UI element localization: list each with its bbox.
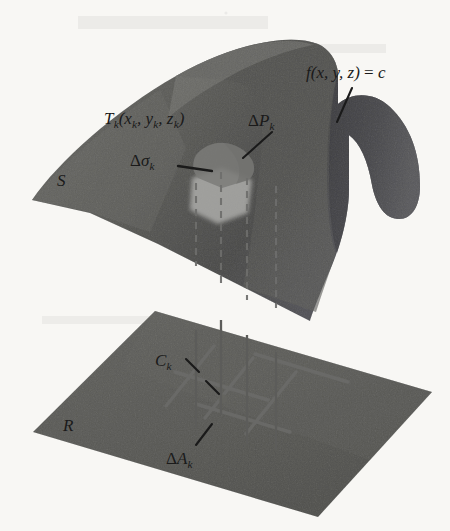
tangent-point-args-open: (x (119, 109, 132, 128)
surface-name-label: S (57, 172, 66, 189)
cell-point-label: Ck (155, 352, 172, 372)
surface-fold-lobe (329, 72, 420, 253)
tangent-patch-base: P (259, 111, 269, 130)
cell-area-base: A (177, 449, 187, 468)
cell-area-delta: Δ (166, 449, 177, 468)
level-surface-args: (x, y, z) (311, 63, 360, 82)
surface-integral-figure: f(x, y, z) = c Tk(xk, yk, zk) ΔPk Δσk S … (0, 0, 450, 531)
tangent-point-label: Tk(xk, yk, zk) (104, 110, 184, 130)
tangent-patch-label: ΔPk (248, 112, 275, 132)
cell-point-base: C (155, 351, 166, 370)
region-name-label: R (63, 417, 73, 434)
surface-patch-delta: Δ (130, 151, 141, 170)
tangent-patch-delta: Δ (248, 111, 259, 130)
tangent-point-args-mid1: , y (137, 109, 153, 128)
cell-point-sub: k (167, 360, 172, 372)
tangent-point-base: T (104, 109, 113, 128)
tangent-point-args-close: ) (179, 109, 185, 128)
surface-patch-sub: k (150, 160, 155, 172)
cell-area-sub: k (188, 458, 193, 470)
tangent-patch-sub: k (270, 120, 275, 132)
surface-patch-base: σ (141, 151, 149, 170)
level-surface-equation-label: f(x, y, z) = c (306, 64, 385, 81)
surface-patch-label: Δσk (130, 152, 155, 172)
level-surface-c: c (378, 63, 386, 82)
tangent-point-args-mid2: , z (158, 109, 173, 128)
cell-area-label: ΔAk (166, 450, 193, 470)
level-surface-eq: = (360, 63, 378, 82)
